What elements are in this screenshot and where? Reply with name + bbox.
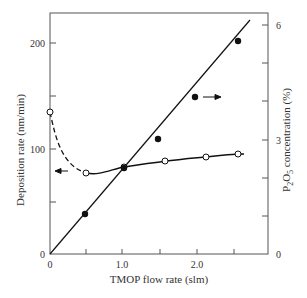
y-tick-label: 200 [30, 38, 45, 49]
x-tick-label: 2.0 [191, 259, 204, 270]
data-point [155, 136, 161, 142]
p2o5-fit-line [50, 20, 250, 254]
chart: 200 100 0 6 3 0 0 1.0 2.0 TMOP flow rate… [0, 0, 307, 298]
x-tick-label: 0 [48, 259, 53, 270]
data-point [47, 109, 53, 115]
deposition-markers [47, 109, 241, 176]
data-point [121, 165, 127, 171]
plot-frame [50, 13, 268, 254]
left-axis-arrow [55, 169, 68, 174]
deposition-curve-dashed [50, 112, 86, 173]
data-point [203, 154, 209, 160]
x-axis-title: TMOP flow rate (slm) [110, 273, 209, 286]
right-axis-arrow [203, 95, 221, 100]
y2-tick-label: 6 [276, 20, 281, 31]
data-point [162, 158, 168, 164]
data-point [83, 170, 89, 176]
x-tick-label: 1.0 [116, 259, 129, 270]
data-point [235, 151, 241, 157]
y-tick-label: 100 [30, 144, 45, 155]
data-point [192, 94, 198, 100]
right-axis-ticks [262, 25, 268, 216]
data-point [82, 211, 88, 217]
y-tick-label: 0 [40, 249, 45, 260]
y-axis-title: Deposition rate (nm/min) [14, 94, 27, 206]
x-axis-ticks [86, 249, 234, 254]
y2-axis-title: P2O5 concentration (%) [280, 88, 295, 192]
p2o5-markers [82, 38, 241, 217]
y2-tick-label: 0 [276, 249, 281, 260]
data-point [235, 38, 241, 44]
